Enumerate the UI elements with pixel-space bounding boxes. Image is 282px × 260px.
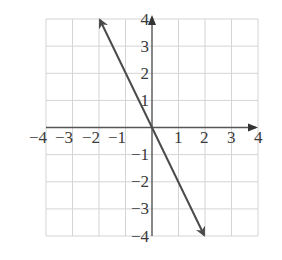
x-tick-neg1: −1 xyxy=(108,128,126,147)
y-tick-pos4: 4 xyxy=(141,10,150,29)
x-tick-pos4: 4 xyxy=(254,128,263,147)
x-tick-pos2: 2 xyxy=(200,128,209,147)
y-tick-pos3: 3 xyxy=(141,37,150,56)
x-tick-pos1: 1 xyxy=(174,128,183,147)
y-tick-neg3: −3 xyxy=(131,199,149,218)
y-tick-neg1: −1 xyxy=(131,145,149,164)
y-tick-neg2: −2 xyxy=(131,172,149,191)
coordinate-plane: −4 −3 −2 −1 1 2 3 4 4 3 2 1 −1 −2 −3 −4 xyxy=(0,0,282,260)
x-tick-pos3: 3 xyxy=(227,128,236,147)
y-tick-pos2: 2 xyxy=(141,64,150,83)
y-tick-neg4: −4 xyxy=(131,227,150,246)
x-tick-neg4: −4 xyxy=(29,128,48,147)
x-tick-neg2: −2 xyxy=(82,128,100,147)
x-tick-neg3: −3 xyxy=(55,128,73,147)
